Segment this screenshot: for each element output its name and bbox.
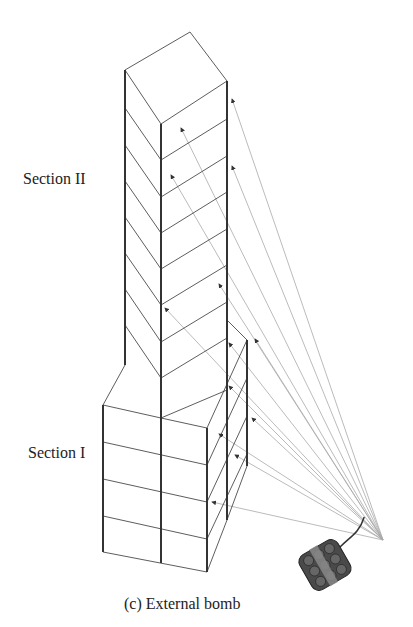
section-1-label: Section I — [28, 444, 85, 462]
section-2-label: Section II — [23, 170, 86, 188]
diagram-canvas — [0, 0, 413, 627]
section-2-tower — [103, 32, 227, 428]
figure-caption: (c) External bomb — [124, 595, 240, 613]
